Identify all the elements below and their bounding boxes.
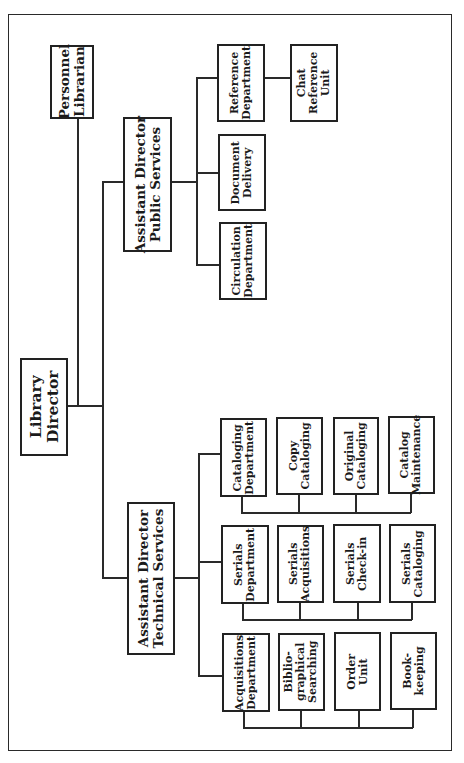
node-label: Serials Check-in: [345, 536, 369, 590]
node-label: Library Director: [27, 371, 60, 443]
node-label: Serials Department: [233, 528, 257, 602]
drop-serials-dept: [242, 603, 244, 620]
node-label: Serials Cataloging: [401, 530, 425, 597]
connector-reference: [196, 77, 218, 79]
connector-technical-bracket: [198, 453, 200, 676]
node-label: Order Unit: [346, 654, 370, 690]
node-label: Book- keeping: [402, 646, 426, 695]
node-catalog-maintenance: Catalog Maintenance: [388, 416, 435, 494]
connector-public-out: [171, 181, 197, 183]
node-serials-acquisitions: Serials Acquisitions: [277, 525, 324, 603]
connector-serials: [198, 561, 221, 563]
node-personnel-librarian: Personnel Librarian: [50, 45, 94, 119]
connector-ad-public: [102, 181, 123, 183]
drop-cataloging-dept: [241, 496, 243, 513]
node-order-unit: Order Unit: [334, 632, 381, 711]
drop-bibliographical-searching: [300, 710, 302, 728]
node-label: Chat Reference Unit: [296, 52, 332, 114]
node-label: Serials Acquisitions: [289, 526, 313, 602]
drop-serials-acquisitions: [299, 602, 301, 620]
connector-acquisitions: [198, 675, 222, 677]
node-label: Reference Department: [229, 46, 253, 120]
node-bibliographical-searching: Biblio- graphical Searching: [278, 633, 325, 711]
node-document-delivery: Document Delivery: [218, 134, 266, 211]
node-reference-department: Reference Department: [217, 44, 265, 122]
drop-bookkeeping: [412, 709, 414, 728]
connector-cataloging: [198, 453, 220, 455]
bus-serials: [242, 619, 412, 621]
connector-director: [67, 405, 103, 407]
drop-serials-cataloging: [411, 602, 413, 620]
node-circulation-department: Circulation Department: [219, 222, 267, 300]
drop-original-cataloging: [355, 494, 357, 513]
node-serials-checkin: Serials Check-in: [333, 524, 381, 603]
node-label: Circulation Department: [231, 224, 255, 298]
node-cataloging-department: Cataloging Department: [220, 418, 267, 497]
node-library-director: Library Director: [20, 358, 68, 456]
node-label: Acquisitions Department: [234, 634, 258, 710]
node-ad-public-services: Assistant Director Public Services: [123, 117, 172, 252]
node-original-cataloging: Original Cataloging: [333, 417, 379, 495]
node-label: Personnel Librarian: [57, 44, 86, 119]
node-label: Assistant Director Public Services: [133, 116, 162, 253]
connector-trunk: [102, 181, 104, 579]
drop-order-unit: [358, 710, 360, 728]
node-acquisitions-department: Acquisitions Department: [222, 633, 270, 712]
node-serials-department: Serials Department: [221, 525, 269, 604]
node-serials-cataloging: Serials Cataloging: [389, 524, 436, 603]
node-copy-cataloging: Copy Cataloging: [276, 417, 323, 495]
bus-acquisitions: [243, 727, 413, 729]
node-bookkeeping: Book- keeping: [390, 632, 437, 710]
node-label: Catalog Maintenance: [400, 415, 424, 495]
node-label: Assistant Director Technical Services: [136, 509, 165, 649]
drop-acquisitions-dept: [243, 711, 245, 728]
connector-document-delivery: [196, 172, 218, 174]
node-label: Original Cataloging: [344, 422, 368, 489]
drop-copy-cataloging: [298, 494, 300, 513]
drop-serials-checkin: [357, 602, 359, 620]
node-chat-reference-unit: Chat Reference Unit: [290, 44, 338, 122]
node-label: Biblio- graphical Searching: [284, 641, 320, 703]
connector-personnel: [77, 118, 79, 406]
bus-cataloging: [241, 512, 411, 514]
drop-catalog-maintenance: [410, 493, 412, 513]
connector-technical-out: [174, 577, 199, 579]
connector-circulation: [196, 264, 219, 266]
connector-ad-technical: [102, 577, 127, 579]
node-label: Cataloging Department: [232, 421, 256, 495]
node-label: Copy Cataloging: [288, 422, 312, 489]
node-ad-technical-services: Assistant Director Technical Services: [127, 502, 175, 655]
connector-chat-reference: [265, 77, 290, 79]
node-label: Document Delivery: [230, 141, 254, 204]
